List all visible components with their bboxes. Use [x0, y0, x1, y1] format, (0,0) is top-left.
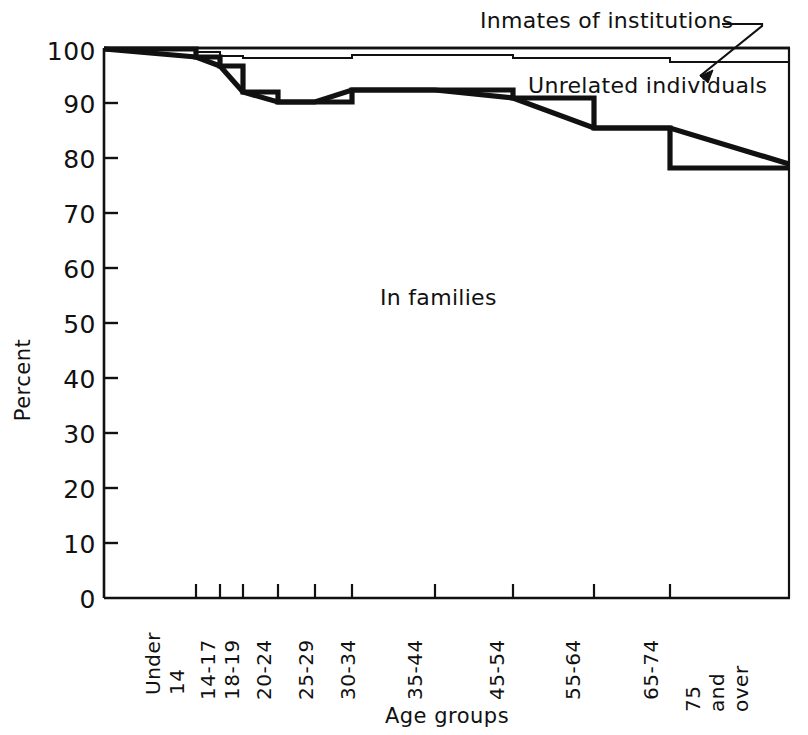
chart-canvas: 100 90 80 70 60 50 40 30 20 10 0 Percent: [0, 0, 808, 735]
x-axis-title: Age groups: [385, 704, 509, 728]
label-unrelated-individuals: Unrelated individuals: [528, 73, 767, 98]
x-category-label-14-17: 14-17: [196, 639, 220, 700]
in-families-step-path: [104, 49, 789, 164]
x-category-labels: Under 14 14-17 18-19 20-24 25-29 30-34 3…: [141, 632, 753, 712]
x-tick-marks: [196, 584, 670, 598]
x-category-label-65-74: 65-74: [639, 639, 663, 700]
cat-under-14-line-0: Under: [141, 632, 165, 695]
y-tick-label-90: 90: [63, 90, 96, 119]
cat-under-14-line-1: 14: [165, 669, 189, 695]
y-tick-label-60: 60: [63, 255, 96, 284]
x-category-label-18-19: 18-19: [220, 639, 244, 700]
x-category-label-55-64: 55-64: [561, 639, 585, 700]
x-category-label-20-24: 20-24: [252, 639, 276, 700]
x-category-label-under-14: Under 14: [141, 632, 189, 695]
x-category-label-30-34: 30-34: [336, 639, 360, 700]
y-tick-labels: 100 90 80 70 60 50 40 30 20 10 0: [47, 37, 96, 614]
series-in-families: [104, 49, 789, 168]
y-tick-label-40: 40: [63, 365, 96, 394]
y-tick-label-100: 100: [47, 37, 96, 66]
y-tick-label-10: 10: [63, 530, 96, 559]
y-tick-label-20: 20: [63, 475, 96, 504]
y-tick-label-30: 30: [63, 420, 96, 449]
cat-75-over-line-2: over: [729, 665, 753, 712]
y-tick-label-70: 70: [63, 200, 96, 229]
y-tick-label-50: 50: [63, 310, 96, 339]
cat-75-over-line-1: and: [705, 673, 729, 712]
y-tick-label-80: 80: [63, 145, 96, 174]
x-category-label-25-29: 25-29: [294, 639, 318, 700]
label-inmates-of-institutions: Inmates of institutions: [480, 8, 734, 33]
x-category-label-75-and-over: 75 and over: [681, 665, 753, 712]
figure-container: 100 90 80 70 60 50 40 30 20 10 0 Percent: [0, 0, 808, 735]
x-category-label-35-44: 35-44: [403, 639, 427, 700]
y-tick-marks: [104, 103, 118, 543]
y-axis-title: Percent: [11, 339, 35, 422]
in-families-boundary: [104, 49, 789, 168]
label-in-families: In families: [380, 285, 497, 310]
y-tick-label-0: 0: [80, 585, 96, 614]
x-category-label-45-54: 45-54: [485, 639, 509, 700]
cat-75-over-line-0: 75: [681, 686, 705, 712]
